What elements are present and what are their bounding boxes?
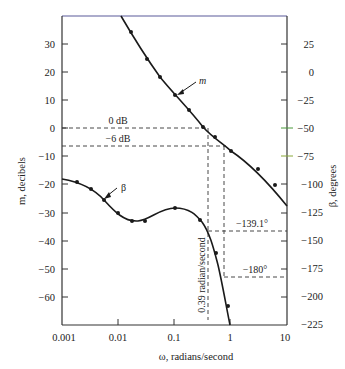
tick-label: −10: [39, 151, 55, 162]
tick-label: −50: [298, 123, 314, 134]
tick-label: 0: [50, 123, 55, 134]
tick-label: 0.001: [52, 332, 76, 343]
tick-label: −100: [301, 179, 323, 190]
tick-label: 25: [304, 39, 315, 50]
tick-label: −20: [39, 179, 55, 190]
right-y-tick-labels: 25 0 −25 −50 −75 −100 −125 −150 −175 −20…: [298, 39, 323, 330]
curve-label-m: m: [199, 75, 206, 86]
tick-label: −175: [301, 263, 323, 274]
tick-label: −60: [39, 292, 55, 303]
x-axis-title: ω, radians/second: [159, 351, 234, 362]
tick-label: −75: [298, 151, 314, 162]
tick-label: 20: [45, 67, 56, 78]
annotation-0db: 0 dB: [108, 115, 128, 126]
tick-label: 0: [309, 67, 314, 78]
tick-label: 0.1: [167, 332, 180, 343]
tick-label: −150: [301, 235, 323, 246]
tick-label: −25: [298, 95, 314, 106]
tick-label: −30: [39, 208, 55, 219]
x-axis-ticks: [118, 319, 230, 325]
tick-label: −125: [301, 207, 323, 218]
annotation-phase-180: −180°: [243, 264, 268, 275]
left-y-axis-ticks: [62, 44, 68, 297]
right-y-axis-title: β, degrees: [327, 165, 338, 208]
tick-label: −225: [301, 319, 323, 330]
annotation-phase-139: −139.1°: [236, 218, 268, 229]
curve-label-beta: β: [121, 182, 126, 193]
tick-label: −200: [301, 291, 323, 302]
tick-label: 10: [280, 332, 291, 343]
bode-plot: 30 20 10 0 −10 −20 −30 −40 −50 −60 25 0 …: [0, 0, 345, 369]
tick-label: −40: [39, 236, 55, 247]
tick-label: 1: [227, 332, 232, 343]
tick-label: 10: [45, 95, 56, 106]
series-m: [121, 16, 287, 206]
left-y-tick-labels: 30 20 10 0 −10 −20 −30 −40 −50 −60: [39, 39, 55, 303]
tick-label: 0.01: [109, 332, 127, 343]
x-tick-labels: 0.001 0.01 0.1 1 10: [52, 332, 290, 343]
plot-frame: [62, 16, 287, 325]
tick-label: 30: [45, 39, 56, 50]
annotation-minus6db: −6 dB: [106, 133, 131, 144]
left-y-axis-title: m, decibels: [16, 157, 27, 205]
annotation-crossover-frequency: 0.39 radian/second: [196, 237, 207, 313]
tick-label: −50: [39, 264, 55, 275]
data-points-m: [129, 30, 277, 187]
